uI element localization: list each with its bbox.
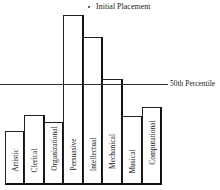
bar-organizational: Organizational — [44, 122, 64, 184]
percentile-line — [0, 84, 168, 85]
bar-mechanical: Mechanical — [102, 79, 123, 184]
bar-label: Musical — [128, 149, 137, 173]
bar-label: Computational — [147, 120, 156, 165]
legend-marker-icon — [88, 6, 90, 8]
bar-clerical: Clerical — [24, 115, 45, 184]
percentile-label: 50th Percentile — [170, 79, 215, 88]
baseline — [5, 183, 162, 185]
bar-label: Clerical — [30, 149, 39, 173]
bar-label: Persuasive — [69, 138, 78, 170]
bar-computational: Computational — [142, 107, 162, 184]
bar-label: Intellectual — [88, 138, 97, 172]
bar-label: Artistic — [10, 149, 19, 172]
bar-artistic: Artistic — [5, 131, 25, 184]
bar-persuasive: Persuasive — [63, 15, 84, 184]
bar-musical: Musical — [122, 116, 143, 184]
bar-label: Mechanical — [108, 134, 117, 169]
bar-intellectual: Intellectual — [83, 37, 103, 184]
legend: Initial Placement — [88, 2, 150, 11]
legend-label: Initial Placement — [96, 2, 150, 11]
bar-label: Organizational — [49, 126, 58, 170]
